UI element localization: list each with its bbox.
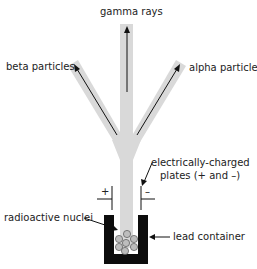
plates-label-line2: plates (+ and –) (160, 170, 240, 182)
beam-stem-joint (112, 140, 141, 160)
alpha-label: alpha particles (189, 62, 257, 74)
plus-sign: + (101, 186, 109, 198)
minus-sign: – (145, 186, 150, 198)
beta-beam (68, 60, 128, 152)
beta-arrow (77, 69, 117, 135)
plates-label-line1: electrically-charged (151, 157, 250, 169)
beta-label: beta particles (6, 61, 75, 73)
container-leader-head (149, 234, 155, 240)
nuclei-cluster (115, 230, 137, 254)
gamma-label: gamma rays (100, 6, 163, 18)
plates-leader-head (141, 179, 147, 186)
nuclei-label: radioactive nuclei (4, 212, 93, 224)
alpha-arrow (137, 69, 177, 135)
alpha-beam (126, 60, 186, 152)
container-label: lead container (173, 231, 245, 243)
radiation-diagram (0, 0, 257, 269)
